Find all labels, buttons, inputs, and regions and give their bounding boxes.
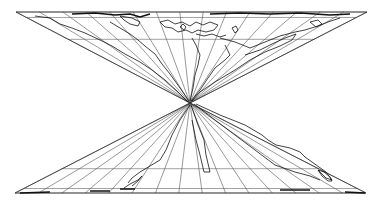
meridian-north xyxy=(190,12,250,103)
meridian-south xyxy=(190,103,249,193)
meridian-north xyxy=(39,12,190,103)
meridian-north xyxy=(190,12,227,103)
meridian-north xyxy=(190,12,203,103)
meridian-south xyxy=(38,103,190,193)
meridian-south xyxy=(190,103,202,193)
coastline-south-america xyxy=(128,105,190,183)
south-triangle-outline xyxy=(15,103,366,193)
meridian-south xyxy=(85,103,190,193)
coastline-antarctica xyxy=(20,189,365,193)
meridian-south xyxy=(179,103,190,193)
meridian-north xyxy=(190,12,344,103)
coastline-north-america xyxy=(35,16,188,102)
meridian-south xyxy=(190,103,296,193)
meridian-south xyxy=(109,103,190,193)
meridian-south xyxy=(155,103,190,193)
meridian-north xyxy=(190,12,297,103)
meridian-south xyxy=(62,103,190,193)
coastline-asia-arctic xyxy=(210,13,350,15)
meridian-north xyxy=(190,12,273,103)
map-canvas xyxy=(0,0,383,205)
meridian-south xyxy=(190,103,272,193)
coastline-asia xyxy=(220,18,340,48)
meridian-north xyxy=(110,12,190,103)
meridian-south xyxy=(132,103,190,193)
coastline-mediterranean xyxy=(196,34,226,37)
coastline-british-isles xyxy=(180,24,186,30)
meridian-south xyxy=(190,103,319,193)
meridian-north xyxy=(63,12,190,103)
coastline-europe xyxy=(160,20,218,33)
